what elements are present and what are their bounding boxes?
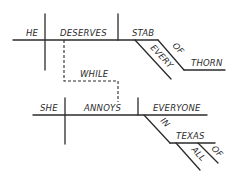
clause2-object: EVERYONE (153, 103, 201, 113)
clause-1: HE DESERVES STAB EVERY OF THORN (13, 14, 225, 79)
clause2-prep-object: TEXAS (176, 131, 205, 141)
clause1-object: STAB (132, 28, 154, 38)
clause2-verb: ANNOYS (83, 103, 121, 113)
connector-word: WHILE (80, 69, 109, 79)
clause2-preposition: IN (159, 116, 173, 130)
clause-2: SHE ANNOYS EVERYONE IN TEXAS ALL OF (33, 98, 225, 170)
clause1-prep-object: THORN (191, 58, 223, 68)
clause2-subject: SHE (40, 103, 58, 113)
clause1-verb: DESERVES (60, 28, 107, 38)
sentence-diagram: HE DESERVES STAB EVERY OF THORN WHILE SH… (0, 0, 239, 182)
clause1-preposition: OF (171, 41, 186, 57)
clause1-subject: HE (26, 28, 39, 38)
connector: WHILE (64, 40, 118, 102)
